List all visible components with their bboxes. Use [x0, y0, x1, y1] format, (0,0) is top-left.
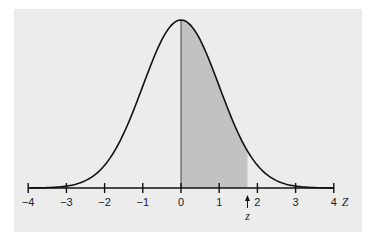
x-tick-label: −1	[137, 196, 150, 208]
z-annotation: z	[244, 195, 250, 223]
arrowhead-icon	[245, 195, 250, 201]
x-tick-label: −2	[98, 196, 111, 208]
x-tick-label: 0	[178, 196, 184, 208]
x-tick-label: 3	[293, 196, 299, 208]
x-tick-label: −4	[22, 196, 35, 208]
shaded-area	[181, 20, 247, 188]
x-axis-label: Z	[342, 195, 349, 209]
normal-curve-chart: −4−3−2−101234Z z	[0, 0, 374, 242]
x-tick-label: 2	[254, 196, 260, 208]
x-tick-label: −3	[60, 196, 73, 208]
x-tick-label: 1	[216, 196, 222, 208]
x-tick-label: 4	[331, 196, 337, 208]
z-label: z	[244, 209, 250, 223]
